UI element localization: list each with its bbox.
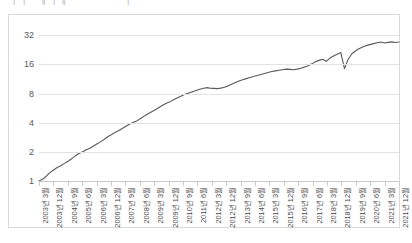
- x-tick: [341, 182, 342, 186]
- x-tick: [39, 182, 40, 186]
- x-tick-label: 2009년 12월: [172, 187, 179, 228]
- plot-area: 12481632: [39, 28, 399, 181]
- x-axis-ticks: [39, 182, 399, 186]
- x-tick-label: 2014년 6월: [258, 187, 265, 224]
- clipped-header-text: ᅟᅵᅟᅵᅟᅟᅵᅵᅟᅵᅟᅵᅵᅟ ᅟ ᅵᅵ ᅟ ᅟᅵᅟ: [0, 0, 412, 9]
- y-tick-label-16: 16: [24, 60, 34, 69]
- x-tick-label: 2015년 12월: [287, 187, 294, 228]
- x-tick-label: 2006년 12월: [114, 187, 121, 228]
- x-tick-label: 2018년 12월: [344, 187, 351, 228]
- x-tick: [356, 182, 357, 186]
- x-tick-label: 2015년 3월: [272, 187, 279, 224]
- x-tick: [68, 182, 69, 186]
- x-tick-label: 2017년 6월: [316, 187, 323, 224]
- x-tick: [385, 182, 386, 186]
- x-tick-label: 2012년 3월: [215, 187, 222, 224]
- x-tick-label: 2005년 6월: [85, 187, 92, 224]
- x-tick: [154, 182, 155, 186]
- x-tick: [212, 182, 213, 186]
- gridline-2: [39, 152, 399, 153]
- x-tick-label: 2003년 3월: [42, 187, 49, 224]
- x-tick: [53, 182, 54, 186]
- x-tick-label: 2010년 9월: [186, 187, 193, 224]
- x-tick-label: 2013년 9월: [244, 187, 251, 224]
- x-axis-labels: 2003년 3월2003년 12월2004년 9월2005년 6월2006년 3…: [39, 187, 399, 243]
- line-series: [39, 28, 399, 181]
- x-tick-label: 2011년 6월: [200, 187, 207, 223]
- y-tick-label-2: 2: [29, 147, 34, 156]
- x-tick-label: 2008년 6월: [143, 187, 150, 224]
- x-tick-label: 2003년 12월: [56, 187, 63, 228]
- x-tick: [298, 182, 299, 186]
- x-tick-label: 2019년 9월: [359, 187, 366, 224]
- x-tick: [241, 182, 242, 186]
- y-tick-label-1: 1: [29, 177, 34, 186]
- x-tick-label: 2007년 9월: [128, 187, 135, 224]
- x-tick: [399, 182, 400, 186]
- x-tick: [370, 182, 371, 186]
- y-tick-label-8: 8: [29, 89, 34, 98]
- x-tick: [269, 182, 270, 186]
- x-tick-label: 2016년 9월: [301, 187, 308, 224]
- x-tick-label: 2020년 6월: [373, 187, 380, 224]
- x-tick: [226, 182, 227, 186]
- x-tick-label: 2012년 12월: [229, 187, 236, 228]
- y-tick-label-32: 32: [24, 31, 34, 40]
- x-tick: [183, 182, 184, 186]
- clipped-header-fragment: ᅟᅵᅟᅵᅟᅟᅵᅵᅟᅵᅟᅵᅵᅟ ᅟ ᅵᅵ ᅟ ᅟᅵᅟ: [6, 0, 140, 7]
- x-tick-label: 2004년 9월: [71, 187, 78, 224]
- x-tick: [82, 182, 83, 186]
- x-tick-label: 2018년 3월: [330, 187, 337, 224]
- x-tick: [197, 182, 198, 186]
- x-tick: [255, 182, 256, 186]
- x-tick-label: 2006년 3월: [100, 187, 107, 224]
- x-tick: [111, 182, 112, 186]
- gridline-8: [39, 94, 399, 95]
- series-polyline: [39, 42, 399, 181]
- x-tick: [284, 182, 285, 186]
- x-tick: [169, 182, 170, 186]
- gridline-4: [39, 123, 399, 124]
- gridline-16: [39, 64, 399, 65]
- gridline-32: [39, 35, 399, 36]
- x-tick: [327, 182, 328, 186]
- y-tick-label-4: 4: [29, 118, 34, 127]
- x-tick: [313, 182, 314, 186]
- x-tick: [97, 182, 98, 186]
- x-tick-label: 2009년 3월: [157, 187, 164, 224]
- chart-frame: 12481632 2003년 3월2003년 12월2004년 9월2005년 …: [8, 14, 400, 228]
- x-tick-label: 2021년 3월: [388, 187, 395, 224]
- x-tick: [125, 182, 126, 186]
- x-tick-label: 2021년 12월: [402, 187, 409, 228]
- x-tick: [140, 182, 141, 186]
